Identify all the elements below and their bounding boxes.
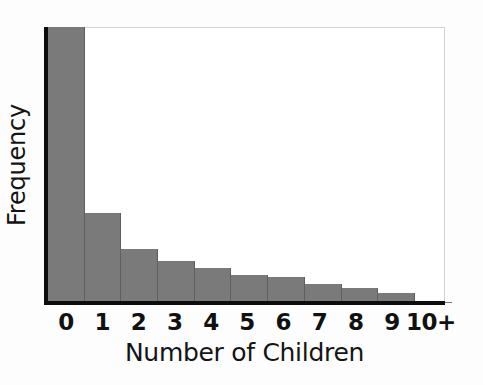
x-tick-label: 5 [229, 307, 265, 337]
bar [121, 249, 158, 303]
plot-area [44, 27, 445, 303]
bar [231, 275, 268, 303]
histogram-figure: Frequency 012345678910+ Number of Childr… [0, 0, 483, 385]
x-tick-label: 1 [84, 307, 120, 337]
x-tick-label: 0 [48, 307, 84, 337]
y-axis-line [44, 27, 48, 305]
x-tick-label: 10+ [406, 307, 452, 337]
bar [85, 213, 122, 303]
x-axis-tick-labels: 012345678910+ [48, 307, 452, 337]
x-tick-label: 8 [338, 307, 374, 337]
x-tick-label: 3 [157, 307, 193, 337]
x-tick-label: 2 [120, 307, 156, 337]
x-tick-label: 9 [374, 307, 410, 337]
bar [48, 27, 85, 303]
x-tick-label: 4 [193, 307, 229, 337]
x-axis-line [44, 301, 445, 305]
bar [268, 277, 305, 303]
bar [195, 268, 232, 303]
x-tick-label: 7 [301, 307, 337, 337]
bar-series [48, 27, 452, 303]
x-tick-label: 6 [265, 307, 301, 337]
bar [158, 261, 195, 304]
y-axis-label: Frequency [0, 95, 34, 235]
x-axis-label: Number of Children [44, 338, 445, 367]
